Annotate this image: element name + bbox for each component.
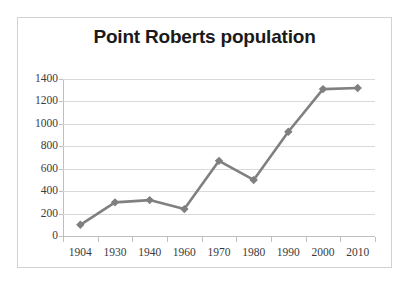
- x-axis-tick-mark: [63, 237, 64, 242]
- chart-title: Point Roberts population: [18, 26, 391, 48]
- x-axis-tick-label: 1970: [208, 246, 231, 258]
- y-axis-tick-mark: [59, 191, 63, 192]
- y-axis-tick-mark: [59, 124, 63, 125]
- y-axis-tick-mark: [59, 214, 63, 215]
- y-axis-tick-label: 600: [20, 163, 58, 175]
- x-axis-tick-label: 1980: [242, 246, 265, 258]
- x-axis-tick-mark: [340, 237, 341, 242]
- y-axis-tick-label: 1200: [20, 95, 58, 107]
- y-axis-tick-mark: [59, 101, 63, 102]
- y-axis-tick-label: 0: [20, 230, 58, 242]
- x-axis-tick-mark: [167, 237, 168, 242]
- y-axis-tick-label: 1400: [20, 73, 58, 85]
- x-axis-tick-mark: [98, 237, 99, 242]
- y-axis-tick-mark: [59, 146, 63, 147]
- x-axis-tick-mark: [236, 237, 237, 242]
- series-line: [80, 88, 357, 225]
- series-line-chart: [63, 79, 375, 237]
- x-axis-tick-mark: [132, 237, 133, 242]
- x-axis-tick-label: 1990: [277, 246, 300, 258]
- x-axis-tick-mark: [202, 237, 203, 242]
- x-axis-tick-label: 2010: [346, 246, 369, 258]
- y-axis-tick-label: 800: [20, 140, 58, 152]
- chart-frame: Point Roberts population 140012001000800…: [17, 17, 392, 268]
- y-axis-tick-label: 200: [20, 208, 58, 220]
- y-axis-tick-labels: 1400120010008006004002000: [18, 79, 58, 237]
- x-axis-tick-labels: 190419301940196019701980199020002010: [63, 246, 375, 262]
- y-axis-tick-label: 400: [20, 185, 58, 197]
- x-axis-tick-label: 1940: [138, 246, 161, 258]
- y-axis-tick-label: 1000: [20, 118, 58, 130]
- x-axis-tick-label: 1960: [173, 246, 196, 258]
- x-axis-tick-label: 1904: [69, 246, 92, 258]
- data-point-marker: [353, 84, 361, 92]
- x-axis-tick-label: 1930: [104, 246, 127, 258]
- y-axis-tick-mark: [59, 169, 63, 170]
- data-point-marker: [145, 196, 153, 204]
- chart-page: Point Roberts population 140012001000800…: [0, 0, 410, 286]
- x-axis-tick-mark: [375, 237, 376, 242]
- x-axis-tick-mark: [306, 237, 307, 242]
- y-axis-tick-mark: [59, 79, 63, 80]
- x-axis-tick-label: 2000: [312, 246, 335, 258]
- x-axis-tick-mark: [271, 237, 272, 242]
